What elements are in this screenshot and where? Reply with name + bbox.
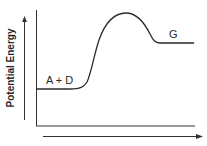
x-axis-arrow-icon: [43, 134, 203, 139]
y-axis-label: Potential Energy: [5, 28, 16, 107]
reactants-label: A + D: [46, 74, 73, 86]
products-label: G: [169, 28, 178, 40]
energy-diagram: A + D G Potential Energy: [0, 0, 207, 146]
y-axis-arrow-icon: [22, 16, 27, 120]
